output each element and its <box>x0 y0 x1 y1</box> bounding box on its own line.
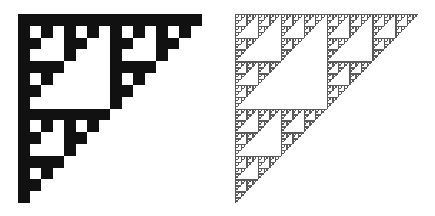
fractal-canvas-fine <box>235 14 418 203</box>
sierpinski-triangle-coarse <box>18 14 202 203</box>
fractal-canvas-coarse <box>18 14 202 203</box>
sierpinski-triangle-fine <box>235 14 418 203</box>
